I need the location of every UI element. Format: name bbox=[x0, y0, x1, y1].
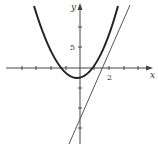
y-arrow-icon bbox=[78, 3, 83, 10]
chart: 2 x 5 y bbox=[0, 0, 158, 144]
y-tick-label: 5 bbox=[70, 43, 75, 52]
x-axis: 2 x bbox=[6, 66, 155, 83]
parabola-curve bbox=[34, 6, 118, 78]
x-tick-label: 2 bbox=[107, 73, 112, 82]
tangent-line bbox=[69, 5, 130, 144]
y-axis: 5 y bbox=[70, 2, 83, 144]
y-axis-label: y bbox=[70, 2, 77, 12]
x-axis-label: x bbox=[150, 70, 155, 80]
